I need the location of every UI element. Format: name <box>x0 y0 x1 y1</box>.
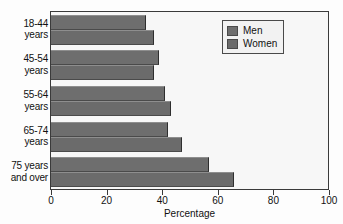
legend-swatch-women-icon <box>227 39 238 49</box>
bar-chart: 18-44years45-54years55-64years65-74years… <box>0 0 343 224</box>
x-tick-label-100: 100 <box>309 195 343 206</box>
x-axis-title: Percentage <box>50 208 329 219</box>
legend: Men Women <box>222 20 284 54</box>
bars-layer <box>51 12 329 190</box>
x-tick-label-0: 0 <box>31 195 71 206</box>
bar-men-4 <box>51 157 209 172</box>
legend-swatch-men-icon <box>227 26 238 36</box>
legend-label-women: Women <box>243 38 277 50</box>
legend-item-men: Men <box>227 24 277 37</box>
bar-women-1 <box>51 65 154 80</box>
bar-men-0 <box>51 15 146 30</box>
category-label-3: 65-74years <box>0 125 48 148</box>
bar-men-3 <box>51 122 168 137</box>
bar-men-2 <box>51 86 165 101</box>
x-tick-label-40: 40 <box>142 195 182 206</box>
x-tick-label-80: 80 <box>253 195 293 206</box>
bar-women-2 <box>51 101 171 116</box>
legend-item-women: Women <box>227 37 277 50</box>
category-label-1: 45-54years <box>0 53 48 76</box>
legend-label-men: Men <box>243 25 262 37</box>
bar-women-3 <box>51 137 182 152</box>
category-label-4: 75 yearsand over <box>0 160 48 183</box>
bar-women-0 <box>51 30 154 45</box>
category-label-0: 18-44years <box>0 18 48 41</box>
bar-men-1 <box>51 50 159 65</box>
bar-women-4 <box>51 172 234 187</box>
x-tick-label-20: 20 <box>87 195 127 206</box>
category-label-2: 55-64years <box>0 89 48 112</box>
x-tick-label-60: 60 <box>198 195 238 206</box>
